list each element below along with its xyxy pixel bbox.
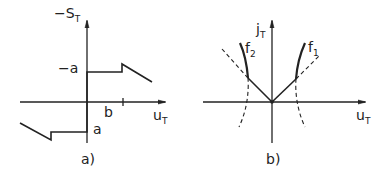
panel-b-y-label: jT	[255, 21, 266, 40]
panel-b-x-axis-arrow-icon	[358, 100, 366, 104]
panel-a-tick-label: b	[104, 104, 113, 120]
panel-a-y-label: −ST	[54, 5, 81, 24]
panel-a: −ST −a a b uT a)	[20, 5, 168, 167]
panel-a-x-label: uT	[153, 107, 168, 126]
panel-a-x-axis-arrow-icon	[158, 100, 166, 104]
panel-b: jT f1 f2 uT b)	[203, 20, 371, 167]
panel-a-upper-branch	[87, 64, 152, 102]
panel-b-left-linear-segment	[248, 78, 272, 102]
panel-b-caption: b)	[266, 151, 280, 167]
panel-b-f1-curve-dashed	[296, 79, 305, 127]
panel-b-f1-label: f1	[308, 39, 319, 58]
panel-a-y-axis-arrow-icon	[85, 20, 89, 28]
panel-b-f1-curve	[296, 43, 305, 79]
panel-b-origin-point	[270, 100, 274, 104]
figure: −ST −a a b uT a) jT f1 f2 uT b)	[0, 0, 387, 180]
panel-a-lower-branch	[20, 102, 87, 140]
panel-b-x-label: uT	[356, 107, 371, 126]
panel-a-level-lower-label: a	[93, 121, 102, 137]
panel-a-level-upper-label: −a	[58, 60, 78, 76]
panel-b-y-axis-arrow-icon	[270, 20, 274, 28]
panel-a-caption: a)	[81, 151, 95, 167]
panel-b-f2-label: f2	[245, 40, 256, 59]
panel-b-right-linear-segment	[272, 79, 296, 102]
